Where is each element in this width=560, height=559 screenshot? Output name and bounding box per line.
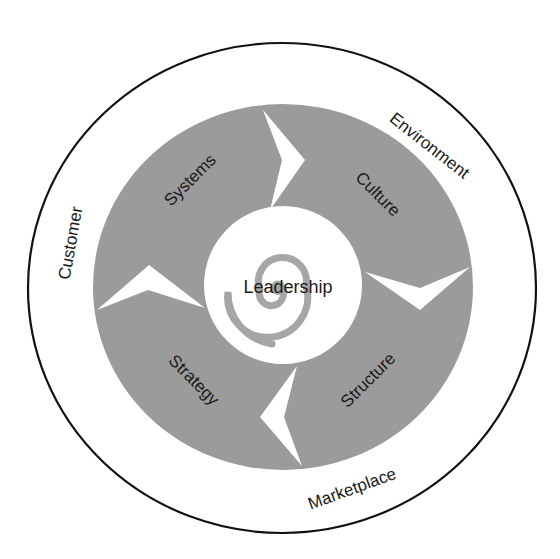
leadership-model-diagram: Leadership Systems Culture Strategy Stru…	[0, 0, 560, 559]
center-label: Leadership	[243, 277, 332, 297]
